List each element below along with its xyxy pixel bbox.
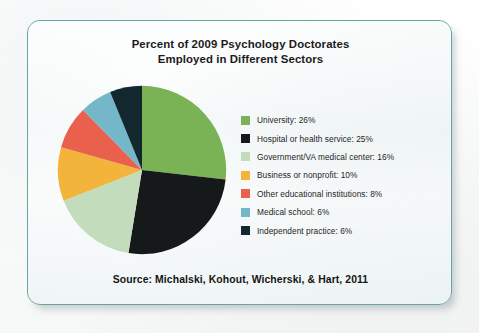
legend-item-label: Other educational institutions: 8% — [257, 189, 382, 199]
legend-item: Government/VA medical center: 16% — [241, 148, 446, 166]
legend-item-label: Hospital or health service: 25% — [257, 134, 373, 144]
legend-color-swatch — [241, 134, 250, 143]
legend-item: Other educational institutions: 8% — [241, 185, 446, 203]
pie-chart-svg — [57, 85, 227, 255]
chart-legend: University: 26%Hospital or health servic… — [241, 111, 446, 240]
legend-item-label: Government/VA medical center: 16% — [257, 152, 394, 162]
legend-item: University: 26% — [241, 111, 446, 129]
chart-source: Source: Michalski, Kohout, Wicherski, & … — [28, 274, 452, 285]
pie-slice — [128, 170, 225, 254]
legend-item: Medical school: 6% — [241, 203, 446, 221]
pie-slice-group — [58, 86, 226, 254]
chart-title: Percent of 2009 Psychology Doctorates Em… — [28, 37, 452, 66]
legend-item: Hospital or health service: 25% — [241, 129, 446, 147]
legend-color-swatch — [241, 189, 250, 198]
chart-title-line-2: Employed in Different Sectors — [28, 52, 452, 67]
legend-item-label: Business or nonprofit: 10% — [257, 170, 357, 180]
pie-chart — [57, 85, 227, 255]
legend-color-swatch — [241, 116, 250, 125]
chart-title-line-1: Percent of 2009 Psychology Doctorates — [28, 37, 452, 52]
legend-item-label: Independent practice: 6% — [257, 226, 352, 236]
legend-color-swatch — [241, 152, 250, 161]
pie-slice — [142, 86, 226, 180]
legend-item-label: University: 26% — [257, 115, 315, 125]
legend-item: Business or nonprofit: 10% — [241, 166, 446, 184]
legend-color-swatch — [241, 171, 250, 180]
chart-card: Percent of 2009 Psychology Doctorates Em… — [27, 20, 452, 305]
legend-color-swatch — [241, 208, 250, 217]
legend-color-swatch — [241, 226, 250, 235]
legend-item: Independent practice: 6% — [241, 221, 446, 239]
legend-item-label: Medical school: 6% — [257, 207, 329, 217]
